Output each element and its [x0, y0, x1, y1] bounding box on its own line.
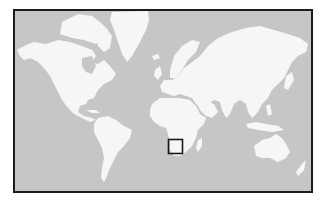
land-philippines	[266, 104, 272, 116]
land-south-america	[94, 116, 132, 182]
world-map	[13, 9, 313, 193]
land-indonesia	[246, 122, 284, 132]
map-figure	[0, 0, 324, 201]
land-iceland	[152, 54, 160, 60]
land-new-zealand	[296, 160, 306, 176]
land-caribbean	[86, 110, 100, 113]
land-north-america	[17, 40, 116, 122]
land-australia	[254, 134, 290, 162]
land-great-britain	[154, 66, 162, 80]
land-greenland	[110, 11, 149, 62]
map-frame	[13, 9, 313, 193]
land-baffin-island	[96, 28, 112, 52]
land-madagascar	[196, 138, 202, 152]
